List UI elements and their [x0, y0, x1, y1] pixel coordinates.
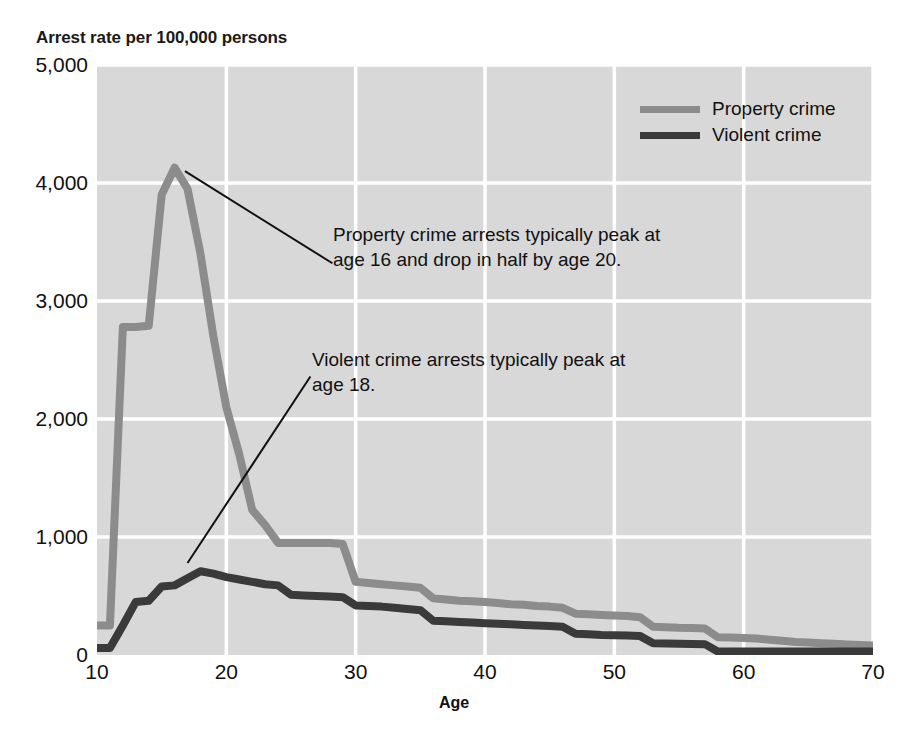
x-axis-tick-label: 40	[473, 660, 496, 684]
x-axis-tick-label: 50	[603, 660, 626, 684]
chart-legend: Property crime Violent crime	[640, 96, 836, 148]
y-axis-tick-label: 3,000	[35, 289, 88, 313]
y-axis-tick-label: 5,000	[35, 53, 88, 77]
legend-item-violent[interactable]: Violent crime	[640, 122, 836, 148]
y-axis-tick-label: 4,000	[35, 171, 88, 195]
chart-axis-title-x: Age	[0, 694, 908, 712]
legend-swatch-property	[640, 106, 700, 113]
annotation-violent-crime: Violent crime arrests typically peak at …	[312, 347, 625, 397]
x-axis-tick-label: 30	[344, 660, 367, 684]
legend-item-property[interactable]: Property crime	[640, 96, 836, 122]
x-axis-tick-label: 60	[732, 660, 755, 684]
legend-label-violent: Violent crime	[712, 124, 821, 146]
x-axis-tick-label: 70	[861, 660, 884, 684]
y-axis-ticks: 01,0002,0003,0004,0005,000	[0, 0, 88, 750]
annotation-property-crime: Property crime arrests typically peak at…	[333, 222, 660, 272]
leader-line	[185, 171, 332, 263]
x-axis-tick-label: 10	[85, 660, 108, 684]
y-axis-tick-label: 1,000	[35, 525, 88, 549]
y-axis-tick-label: 2,000	[35, 407, 88, 431]
x-axis-tick-label: 20	[215, 660, 238, 684]
legend-swatch-violent	[640, 132, 700, 139]
chart-figure: Arrest rate per 100,000 persons 01,0002,…	[0, 0, 908, 750]
annotation-leader-lines	[185, 171, 332, 563]
legend-label-property: Property crime	[712, 98, 836, 120]
leader-line	[188, 377, 311, 563]
